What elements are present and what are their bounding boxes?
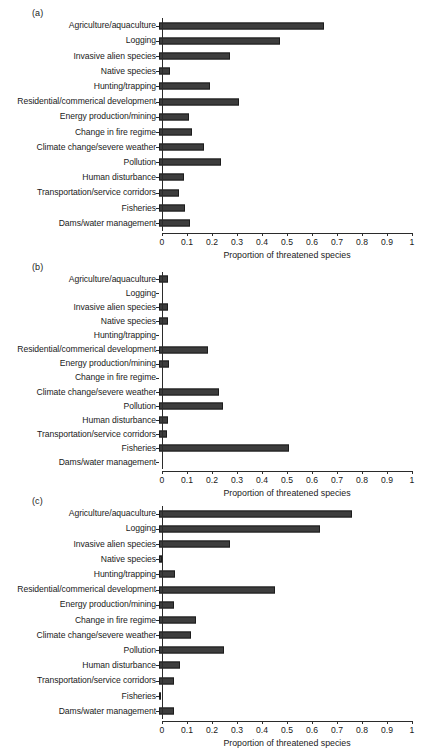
bar-row[interactable]: Residential/commerical development	[0, 94, 437, 109]
bar-row[interactable]: Logging	[0, 286, 437, 300]
bar-category-label: Energy production/mining	[0, 112, 159, 121]
x-axis-ticklabel: 0.8	[356, 726, 368, 735]
bar[interactable]	[159, 22, 324, 29]
bar-row[interactable]: Fisheries	[0, 441, 437, 455]
bar[interactable]	[159, 159, 221, 166]
bar-row[interactable]: Pollution	[0, 155, 437, 170]
bar[interactable]	[159, 318, 168, 325]
bar-row[interactable]: Transportation/service corridors	[0, 673, 437, 688]
bar[interactable]	[159, 52, 230, 59]
bar-row[interactable]: Transportation/service corridors	[0, 427, 437, 441]
bar-track	[159, 385, 409, 399]
bar-row[interactable]: Fisheries	[0, 200, 437, 215]
bar-track	[159, 33, 409, 48]
bar-category-label: Human disturbance	[0, 173, 159, 182]
bar-category-label: Pollution	[0, 402, 159, 411]
x-axis-ticklabel: 0.2	[206, 476, 218, 485]
bar-row[interactable]: Invasive alien species	[0, 48, 437, 63]
bar[interactable]	[159, 402, 223, 409]
bar-category-label: Native species	[0, 317, 159, 326]
bar-row[interactable]: Fisheries	[0, 688, 437, 703]
x-axis-ticklabels: 00.10.20.30.40.50.60.70.80.91	[0, 476, 437, 488]
bar-row[interactable]: Hunting/trapping	[0, 79, 437, 94]
bar-row[interactable]: Energy production/mining	[0, 109, 437, 124]
bar-row[interactable]: Hunting/trapping	[0, 567, 437, 582]
bar[interactable]	[159, 692, 161, 699]
x-axis-ticklabel: 0.1	[181, 726, 193, 735]
bar[interactable]	[159, 525, 320, 532]
bar-row[interactable]: Climate change/severe weather	[0, 385, 437, 399]
bar-row[interactable]: Change in fire regime	[0, 612, 437, 627]
x-axis-line	[162, 233, 412, 234]
bar-track	[159, 399, 409, 413]
bar[interactable]	[159, 632, 191, 639]
bar[interactable]	[159, 360, 169, 367]
bar[interactable]	[159, 586, 275, 593]
bar-row[interactable]: Residential/commerical development	[0, 582, 437, 597]
y-axis-spine	[162, 18, 163, 231]
bar-row[interactable]: Dams/water management	[0, 215, 437, 230]
bar-row[interactable]: Energy production/mining	[0, 357, 437, 371]
bar[interactable]	[159, 304, 168, 311]
bar-row[interactable]: Change in fire regime	[0, 124, 437, 139]
x-axis-line	[162, 721, 412, 722]
bar-row[interactable]: Invasive alien species	[0, 300, 437, 314]
bar-track	[159, 521, 409, 536]
bar[interactable]	[159, 83, 210, 90]
category-rows: Agriculture/aquacultureLoggingInvasive a…	[0, 272, 437, 469]
bar[interactable]	[159, 144, 204, 151]
bar[interactable]	[159, 276, 168, 283]
bar-category-label: Energy production/mining	[0, 359, 159, 368]
bar-row[interactable]: Hunting/trapping	[0, 328, 437, 342]
bar[interactable]	[159, 616, 196, 623]
panel-b: (b) Agriculture/aquacultureLoggingInvasi…	[0, 262, 437, 492]
bar-row[interactable]: Human disturbance	[0, 170, 437, 185]
x-axis-ticklabel: 0.1	[181, 476, 193, 485]
bar[interactable]	[159, 98, 239, 105]
x-axis-tick	[312, 233, 313, 236]
bar-row[interactable]: Residential/commerical development	[0, 342, 437, 356]
y-axis-tick	[156, 462, 159, 463]
bar-row[interactable]: Energy production/mining	[0, 597, 437, 612]
bar-row[interactable]: Dams/water management	[0, 703, 437, 718]
bar[interactable]	[159, 113, 189, 120]
bar-row[interactable]: Human disturbance	[0, 413, 437, 427]
bar-row[interactable]: Invasive alien species	[0, 536, 437, 551]
bar-row[interactable]: Native species	[0, 314, 437, 328]
bar-row[interactable]: Human disturbance	[0, 658, 437, 673]
bar[interactable]	[159, 388, 219, 395]
bar[interactable]	[159, 220, 190, 227]
bar[interactable]	[159, 37, 280, 44]
x-axis-tick	[287, 471, 288, 474]
bar-row[interactable]: Agriculture/aquaculture	[0, 506, 437, 521]
bar-row[interactable]: Agriculture/aquaculture	[0, 18, 437, 33]
x-axis-tick	[362, 233, 363, 236]
y-axis-spine	[162, 506, 163, 719]
bar-row[interactable]: Logging	[0, 521, 437, 536]
bar[interactable]	[159, 68, 170, 75]
x-axis-line	[162, 471, 412, 472]
bar-row[interactable]: Pollution	[0, 399, 437, 413]
bar[interactable]	[159, 510, 352, 517]
bar[interactable]	[159, 647, 224, 654]
bar-row[interactable]: Native species	[0, 64, 437, 79]
bar[interactable]	[159, 540, 230, 547]
bar-track	[159, 658, 409, 673]
bar-row[interactable]: Native species	[0, 552, 437, 567]
bar-row[interactable]: Climate change/severe weather	[0, 140, 437, 155]
bar[interactable]	[159, 346, 208, 353]
bar-row[interactable]: Agriculture/aquaculture	[0, 272, 437, 286]
bar-row[interactable]: Pollution	[0, 643, 437, 658]
bar-row[interactable]: Climate change/severe weather	[0, 628, 437, 643]
bar[interactable]	[159, 416, 168, 423]
x-axis-tick	[412, 721, 413, 724]
bar-category-label: Human disturbance	[0, 416, 159, 425]
bar-row[interactable]: Transportation/service corridors	[0, 185, 437, 200]
bar-category-label: Hunting/trapping	[0, 331, 159, 340]
bar[interactable]	[159, 445, 289, 452]
bar[interactable]	[159, 128, 192, 135]
bar-row[interactable]: Logging	[0, 33, 437, 48]
bar-row[interactable]: Change in fire regime	[0, 371, 437, 385]
bar-row[interactable]: Dams/water management	[0, 455, 437, 469]
bar-track	[159, 628, 409, 643]
